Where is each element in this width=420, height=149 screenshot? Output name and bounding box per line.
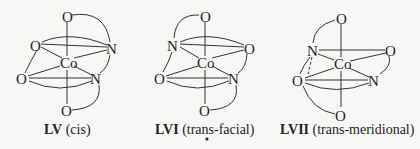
structure-lvii: O N O Co O N O LVII (trans-meridional) [280,11,415,138]
atom-lower-left: O [292,73,303,89]
structure-lvi: O N O Co O N O LVI (trans-facial) [154,9,255,141]
atom-center: Co [334,56,352,72]
atom-top: O [200,9,211,25]
atom-bottom: O [199,103,210,119]
atom-center: Co [197,55,215,71]
atom-upper-right: N [106,41,117,57]
isomer-diagram: O O N Co O N O LV (cis) O N O Co O N O L… [0,0,420,149]
atom-bottom: O [61,103,72,119]
structure-label-lvii: LVII (trans-meridional) [280,122,415,138]
atom-top: O [336,11,347,27]
stray-dot [205,137,208,140]
structure-label-lv: LV (cis) [44,122,91,138]
atom-center: Co [60,55,78,71]
structure-lv: O O N Co O N O LV (cis) [16,9,117,138]
atom-upper-left: O [30,38,41,54]
atom-lower-left: O [16,71,27,87]
atom-lower-left: O [154,71,165,87]
atom-top: O [62,9,73,25]
atom-upper-right: O [385,43,396,59]
atom-lower-right: N [368,73,379,89]
atom-upper-right: O [244,41,255,57]
structure-label-lvi: LVI (trans-facial) [155,122,255,138]
atom-lower-right: N [228,71,239,87]
atom-upper-left: N [307,43,318,59]
atom-lower-right: N [90,71,101,87]
atom-upper-left: N [167,38,178,54]
